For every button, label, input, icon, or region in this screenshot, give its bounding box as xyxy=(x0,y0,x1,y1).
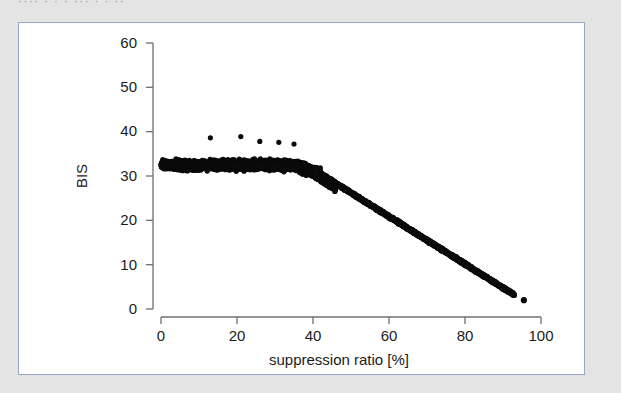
x-tick-label-40: 40 xyxy=(305,327,322,344)
data-point xyxy=(363,200,368,205)
data-point xyxy=(313,173,318,178)
x-axis-title: suppression ratio [%] xyxy=(269,351,409,368)
y-tick-label-30: 30 xyxy=(120,167,137,184)
data-point xyxy=(445,251,450,256)
data-point xyxy=(162,162,167,167)
y-tick-label-50: 50 xyxy=(120,78,137,95)
data-point xyxy=(167,163,172,168)
data-point xyxy=(382,212,387,217)
y-tick-label-10: 10 xyxy=(120,256,137,273)
x-tick-label-20: 20 xyxy=(229,327,246,344)
data-point xyxy=(270,165,275,170)
data-point xyxy=(412,231,417,236)
x-tick-label-0: 0 xyxy=(157,327,165,344)
x-tick-label-100: 100 xyxy=(528,327,553,344)
clipped-header-text: ···· · · · ··· · · ·· xyxy=(18,0,248,5)
x-tick-label-80: 80 xyxy=(457,327,474,344)
data-point xyxy=(257,139,262,144)
data-point xyxy=(238,134,243,139)
data-point xyxy=(430,242,435,247)
y-tick-label-40: 40 xyxy=(120,122,137,139)
y-tick-label-20: 20 xyxy=(120,211,137,228)
data-point xyxy=(307,172,312,177)
data-point xyxy=(401,223,406,228)
data-point xyxy=(190,162,195,167)
data-point xyxy=(326,180,331,185)
data-point xyxy=(208,135,213,140)
data-point xyxy=(502,286,507,291)
y-axis-title: BIS xyxy=(73,164,90,188)
y-tick-label-0: 0 xyxy=(129,300,137,317)
data-point xyxy=(282,163,287,168)
data-point-group xyxy=(159,134,527,303)
y-axis-ticks xyxy=(146,43,153,309)
data-point xyxy=(249,162,254,167)
data-point xyxy=(479,272,484,277)
data-point-tail xyxy=(521,297,527,303)
data-point xyxy=(374,207,379,212)
data-point xyxy=(294,162,299,167)
data-point xyxy=(291,141,296,146)
data-point xyxy=(434,244,439,249)
data-point xyxy=(471,267,476,272)
x-tick-label-60: 60 xyxy=(381,327,398,344)
scatter-plot: 60 50 40 30 20 10 0 0 20 40 60 80 100 su… xyxy=(19,23,584,374)
data-point xyxy=(287,161,292,166)
data-point xyxy=(394,220,399,225)
data-point xyxy=(457,259,462,264)
data-point xyxy=(277,163,282,168)
data-point xyxy=(259,164,264,169)
figure-panel: 60 50 40 30 20 10 0 0 20 40 60 80 100 su… xyxy=(18,22,585,375)
data-point xyxy=(345,187,350,192)
data-point xyxy=(220,160,225,165)
x-axis-ticks xyxy=(161,317,541,324)
data-point xyxy=(206,162,211,167)
data-point xyxy=(353,193,358,198)
data-point xyxy=(276,140,281,145)
data-point xyxy=(212,164,217,169)
data-point xyxy=(487,276,492,281)
data-point xyxy=(318,177,323,182)
y-tick-label-60: 60 xyxy=(120,34,137,51)
plot-svg: 60 50 40 30 20 10 0 0 20 40 60 80 100 su… xyxy=(19,23,586,376)
data-point xyxy=(229,162,234,167)
data-point xyxy=(330,185,335,190)
data-point xyxy=(179,162,184,167)
data-point xyxy=(238,163,243,168)
